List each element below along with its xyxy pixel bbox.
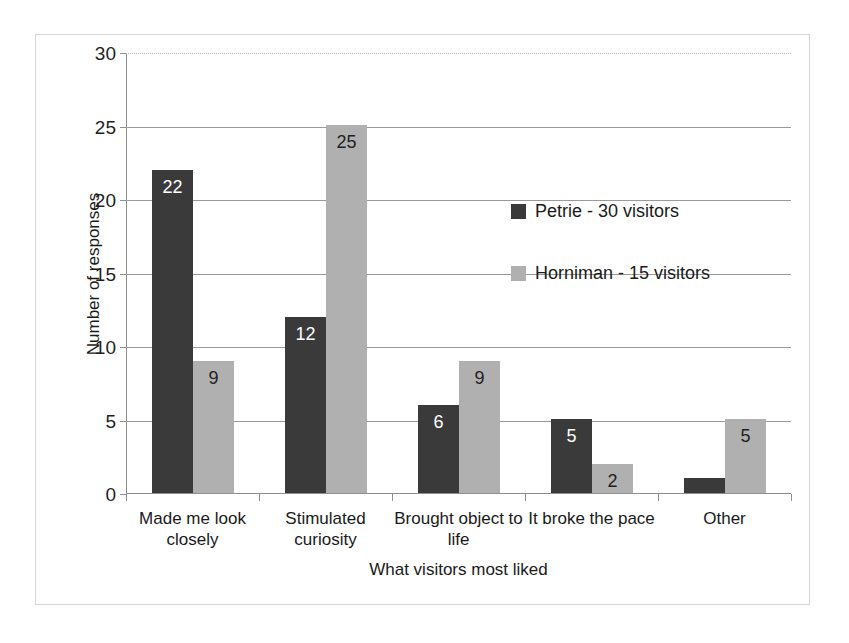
x-axis-line (126, 493, 791, 494)
x-category-label-line: Brought object to (392, 508, 525, 529)
y-tick-mark (120, 347, 126, 348)
x-category-label-line: It broke the pace (525, 508, 658, 529)
bar: 22 (152, 170, 193, 493)
x-category-label: It broke the pace (525, 508, 658, 529)
y-tick-mark (120, 421, 126, 422)
x-tick-mark (392, 494, 393, 501)
bar: 2 (592, 464, 633, 493)
bar: 12 (285, 317, 326, 493)
y-tick-label: 20 (95, 191, 116, 210)
y-tick-label: 5 (105, 411, 116, 430)
bar: 9 (193, 361, 234, 493)
bar-value-label: 22 (152, 178, 193, 196)
bar: 9 (459, 361, 500, 493)
y-tick-label: 30 (95, 44, 116, 63)
gridline (126, 347, 791, 348)
chart-figure: Number of responses 051015202530 2291225… (35, 34, 810, 605)
legend-swatch-icon-horniman (511, 266, 526, 281)
x-category-label-line: curiosity (259, 529, 392, 550)
x-category-label-line: Other (658, 508, 791, 529)
y-axis-title-container: Number of responses (58, 53, 82, 494)
chart-legend: Petrie - 30 visitors Horniman - 15 visit… (511, 180, 761, 304)
x-category-label-line: closely (126, 529, 259, 550)
legend-swatch-icon-petrie (511, 204, 526, 219)
y-tick-mark (120, 53, 126, 54)
bar (684, 478, 725, 493)
x-tick-mark (791, 494, 792, 501)
x-tick-mark (126, 494, 127, 501)
x-category-label-line: Stimulated (259, 508, 392, 529)
x-category-label: Other (658, 508, 791, 529)
bar-value-label: 9 (459, 369, 500, 387)
bar: 5 (725, 419, 766, 493)
y-tick-mark (120, 200, 126, 201)
x-axis-title: What visitors most liked (126, 560, 791, 580)
y-tick-label: 15 (95, 264, 116, 283)
bar-value-label: 25 (326, 133, 367, 151)
bar: 25 (326, 125, 367, 493)
bar-value-label: 5 (725, 427, 766, 445)
legend-item-petrie: Petrie - 30 visitors (511, 180, 761, 242)
bar-value-label: 6 (418, 413, 459, 431)
legend-item-horniman: Horniman - 15 visitors (511, 242, 761, 304)
bar: 6 (418, 405, 459, 493)
bar-value-label: 5 (551, 427, 592, 445)
bar-value-label: 2 (592, 472, 633, 490)
x-category-label: Made me lookclosely (126, 508, 259, 551)
y-tick-mark (120, 274, 126, 275)
x-category-label: Brought object tolife (392, 508, 525, 551)
y-tick-label: 10 (95, 338, 116, 357)
legend-label-petrie: Petrie - 30 visitors (535, 201, 679, 222)
x-tick-mark (525, 494, 526, 501)
gridline (126, 127, 791, 128)
bar-value-label: 9 (193, 369, 234, 387)
legend-label-horniman: Horniman - 15 visitors (535, 263, 710, 284)
gridline (126, 53, 791, 54)
bar-value-label: 12 (285, 325, 326, 343)
y-tick-label: 25 (95, 117, 116, 136)
bar: 5 (551, 419, 592, 493)
x-category-label-line: life (392, 529, 525, 550)
x-tick-mark (259, 494, 260, 501)
x-category-label-line: Made me look (126, 508, 259, 529)
x-tick-mark (658, 494, 659, 501)
y-tick-label: 0 (105, 485, 116, 504)
y-tick-mark (120, 127, 126, 128)
x-category-label: Stimulatedcuriosity (259, 508, 392, 551)
